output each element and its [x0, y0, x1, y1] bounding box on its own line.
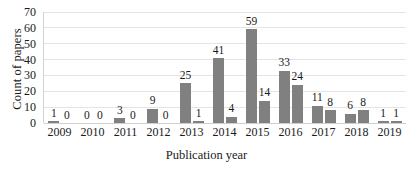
- bar-group: 5914: [241, 12, 274, 123]
- bar-item[interactable]: 3: [114, 12, 125, 123]
- bar-value-label: 1: [196, 108, 202, 120]
- y-tick-label: 70: [24, 6, 36, 18]
- bar-group-bars: 3324: [274, 12, 307, 123]
- bar-value-label: 33: [279, 57, 291, 69]
- x-tick-label: 2018: [340, 125, 373, 141]
- bar-item[interactable]: 1: [378, 12, 389, 123]
- x-tick-label: 2016: [274, 125, 307, 141]
- bar-value-label: 11: [312, 92, 323, 104]
- bar-value-label: 14: [259, 87, 271, 99]
- bar-item[interactable]: 0: [94, 12, 105, 123]
- bar-item[interactable]: 0: [61, 12, 72, 123]
- bar-item[interactable]: 25: [180, 12, 191, 123]
- y-axis-tick-labels: 010203040506070: [0, 12, 39, 123]
- bar-item[interactable]: 59: [246, 12, 257, 123]
- bar-item[interactable]: 11: [312, 12, 323, 123]
- y-tick-label: 60: [24, 22, 36, 34]
- bar-value-label: 59: [246, 16, 258, 28]
- bar-item[interactable]: 8: [325, 12, 336, 123]
- bar-group: 68: [340, 12, 373, 123]
- bar-value-label: 0: [130, 110, 136, 122]
- bar[interactable]: [312, 106, 323, 123]
- bar-item[interactable]: 0: [160, 12, 171, 123]
- bar-item[interactable]: 0: [127, 12, 138, 123]
- bar-group: 414: [209, 12, 242, 123]
- bar-item[interactable]: 0: [81, 12, 92, 123]
- x-tick-label: 2009: [43, 125, 76, 141]
- bar-item[interactable]: 33: [279, 12, 290, 123]
- bar-value-label: 0: [64, 110, 70, 122]
- bar-group-bars: 5914: [241, 12, 274, 123]
- plot-area: 10003090251414591433241186811: [43, 12, 406, 123]
- bar-group-bars: 414: [209, 12, 242, 123]
- bar-item[interactable]: 4: [226, 12, 237, 123]
- bar-group: 11: [373, 12, 406, 123]
- bar-item[interactable]: 8: [358, 12, 369, 123]
- bar-value-label: 3: [117, 105, 123, 117]
- bar[interactable]: [259, 101, 270, 123]
- bar-item[interactable]: 9: [147, 12, 158, 123]
- y-tick-label: 10: [24, 101, 36, 113]
- bar[interactable]: [279, 71, 290, 123]
- bar-group: 118: [307, 12, 340, 123]
- y-tick-label: 0: [30, 117, 36, 129]
- y-tick-label: 50: [24, 38, 36, 50]
- bar[interactable]: [358, 110, 369, 123]
- bar-value-label: 6: [347, 100, 353, 112]
- bar-item[interactable]: 14: [259, 12, 270, 123]
- y-tick-label: 20: [24, 85, 36, 97]
- bar-value-label: 8: [360, 97, 366, 109]
- bar[interactable]: [391, 121, 402, 123]
- bar-group-bars: 251: [176, 12, 209, 123]
- bar[interactable]: [345, 114, 356, 124]
- bar[interactable]: [378, 121, 389, 123]
- bar-value-label: 1: [51, 108, 57, 120]
- x-tick-label: 2013: [175, 125, 208, 141]
- bar-value-label: 0: [163, 110, 169, 122]
- bar[interactable]: [213, 58, 224, 123]
- bar-item[interactable]: 24: [292, 12, 303, 123]
- bar-value-label: 25: [180, 70, 192, 82]
- x-tick-label: 2011: [109, 125, 142, 141]
- x-tick-label: 2019: [373, 125, 406, 141]
- bar-item[interactable]: 41: [213, 12, 224, 123]
- bar-item[interactable]: 6: [345, 12, 356, 123]
- bar[interactable]: [114, 118, 125, 123]
- bar-group-bars: 11: [373, 12, 406, 123]
- bar-group: 10: [44, 12, 77, 123]
- x-tick-label: 2017: [307, 125, 340, 141]
- bar[interactable]: [193, 121, 204, 123]
- x-tick-label: 2014: [208, 125, 241, 141]
- bar[interactable]: [246, 29, 257, 123]
- bar-value-label: 1: [393, 108, 399, 120]
- bar-value-label: 41: [213, 45, 225, 57]
- bar-value-label: 24: [292, 71, 304, 83]
- y-tick-label: 40: [24, 54, 36, 66]
- bar-item[interactable]: 1: [193, 12, 204, 123]
- bar-item[interactable]: 1: [48, 12, 59, 123]
- bar-value-label: 9: [150, 95, 156, 107]
- bar-group-bars: 90: [143, 12, 176, 123]
- bar-value-label: 4: [229, 103, 235, 115]
- bar[interactable]: [325, 110, 336, 123]
- bar-item[interactable]: 1: [391, 12, 402, 123]
- x-tick-label: 2012: [142, 125, 175, 141]
- bar[interactable]: [147, 109, 158, 123]
- bar-group-bars: 30: [110, 12, 143, 123]
- bar-group-bars: 118: [307, 12, 340, 123]
- bar-group: 3324: [274, 12, 307, 123]
- y-tick-label: 30: [24, 69, 36, 81]
- x-tick-label: 2010: [76, 125, 109, 141]
- bar[interactable]: [292, 85, 303, 123]
- bar[interactable]: [226, 117, 237, 123]
- bar-group: 251: [176, 12, 209, 123]
- bar-group: 90: [143, 12, 176, 123]
- bar-value-label: 8: [327, 97, 333, 109]
- bar-group-bars: 10: [44, 12, 77, 123]
- bar[interactable]: [180, 83, 191, 123]
- x-tick-label: 2015: [241, 125, 274, 141]
- bar-group-bars: 00: [77, 12, 110, 123]
- bar[interactable]: [48, 121, 59, 123]
- bar-value-label: 0: [84, 110, 90, 122]
- bar-value-label: 0: [97, 110, 103, 122]
